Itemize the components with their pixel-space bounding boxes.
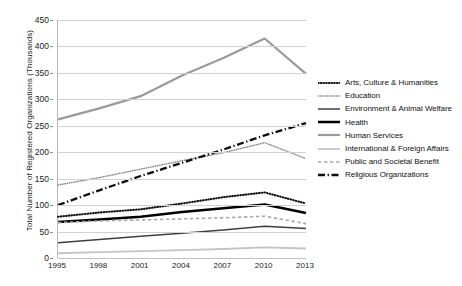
y-axis-tick-label: 250 [35,121,49,131]
legend-line-swatch-icon [318,157,340,167]
gridline [58,152,306,153]
y-axis-tick-label: 400 [35,41,49,51]
legend-label: Human Services [345,131,403,140]
legend-line-swatch-icon [318,91,340,101]
y-axis-tick-mark [50,258,53,259]
series-line [58,226,306,242]
line-chart: Total Number of Registered Organizations… [0,0,462,286]
chart-legend: Arts, Culture & HumanitiesEducationEnvir… [318,76,462,182]
legend-label: Environment & Animal Welfare [345,104,452,113]
legend-item[interactable]: Public and Societal Benefit [318,155,462,168]
y-axis-tick-label: 150 [35,174,49,184]
legend-label: Public and Societal Benefit [345,157,439,166]
legend-line-swatch-icon [318,130,340,140]
y-axis-tick-mark [50,73,53,74]
x-axis-tick-label: 2010 [255,261,273,270]
y-axis-tick-mark [50,179,53,180]
legend-item[interactable]: International & Foreign Affairs [318,142,462,155]
series-line [58,39,306,120]
y-axis-tick-mark [50,126,53,127]
legend-line-swatch-icon [318,78,340,88]
y-axis-tick-label: 100 [35,200,49,210]
legend-label: Health [345,118,368,127]
legend-item[interactable]: Arts, Culture & Humanities [318,76,462,89]
legend-label: Arts, Culture & Humanities [345,78,438,87]
legend-item[interactable]: Education [318,89,462,102]
legend-item[interactable]: Religious Organizations [318,168,462,181]
y-axis-tick-mark [50,232,53,233]
gridline [58,232,306,233]
legend-line-swatch-icon [318,117,340,127]
y-axis-tick-mark [50,20,53,21]
y-axis-tick-label: 50 [40,227,49,237]
y-axis-tick-label: 350 [35,68,49,78]
y-axis-tick-mark [50,99,53,100]
gridline [58,126,306,127]
y-axis-tick-mark [50,152,53,153]
y-axis-tick-labels: 050100150200250300350400450 [0,20,53,258]
legend-line-swatch-icon [318,104,340,114]
x-axis-tick-labels: 1995199820012004200720102013 [57,261,305,275]
series-line [58,123,306,205]
series-lines [58,20,306,258]
legend-item[interactable]: Environment & Animal Welfare [318,102,462,115]
x-axis-tick-label: 2001 [131,261,149,270]
x-axis-tick-label: 1998 [89,261,107,270]
y-axis-tick-label: 300 [35,94,49,104]
legend-line-swatch-icon [318,144,340,154]
plot-area [57,20,305,258]
gridline [58,258,306,259]
legend-line-swatch-icon [318,170,340,180]
gridline [58,46,306,47]
legend-label: International & Foreign Affairs [345,144,449,153]
legend-item[interactable]: Health [318,116,462,129]
y-axis-tick-mark [50,46,53,47]
y-axis-tick-mark [50,205,53,206]
y-axis-tick-label: 200 [35,147,49,157]
gridline [58,99,306,100]
x-axis-tick-label: 2004 [172,261,190,270]
gridline [58,205,306,206]
legend-item[interactable]: Human Services [318,129,462,142]
x-axis-tick-label: 2013 [296,261,314,270]
gridline [58,73,306,74]
series-line [58,247,306,253]
x-axis-tick-label: 1995 [48,261,66,270]
legend-label: Religious Organizations [345,170,428,179]
gridline [58,20,306,21]
y-axis-tick-label: 450 [35,15,49,25]
legend-label: Education [345,91,380,100]
x-axis-tick-label: 2007 [213,261,231,270]
gridline [58,179,306,180]
